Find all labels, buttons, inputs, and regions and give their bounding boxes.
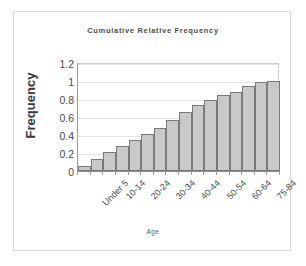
bar [192, 105, 205, 171]
y-tick-label: 0.6 [59, 112, 78, 124]
x-tick-mark [191, 171, 192, 175]
x-tick-mark [153, 171, 154, 175]
x-tick-mark [178, 171, 179, 175]
bar [204, 100, 217, 171]
bar [166, 120, 179, 171]
bar [267, 81, 280, 171]
x-tick-mark [216, 171, 217, 175]
bar [91, 159, 104, 171]
x-axis-title: Age [14, 228, 292, 235]
x-tick-mark [254, 171, 255, 175]
x-tick-label: 10-14 [123, 178, 146, 201]
x-tick-mark [77, 171, 78, 175]
bar [179, 112, 192, 171]
x-tick-mark [102, 171, 103, 175]
y-tick-label: 0.8 [59, 94, 78, 106]
bar [230, 92, 243, 171]
x-tick-mark [90, 171, 91, 175]
bar [116, 146, 129, 171]
y-tick-label: 0.2 [59, 148, 78, 160]
bar [217, 95, 230, 172]
x-tick-mark [128, 171, 129, 175]
chart-title: Cumulative Relative Frequency [14, 26, 292, 35]
x-tick-mark [279, 171, 280, 175]
x-tick-label: Under 5 [101, 178, 131, 208]
bar [242, 86, 255, 172]
bar [103, 152, 116, 171]
bar [255, 82, 268, 171]
x-tick-label: 30-34 [174, 178, 197, 201]
bar [154, 128, 167, 171]
x-tick-mark [203, 171, 204, 175]
bar-series [78, 64, 278, 171]
x-tick-mark [165, 171, 166, 175]
x-tick-mark [115, 171, 116, 175]
x-tick-mark [241, 171, 242, 175]
y-tick-label: 1.2 [59, 58, 78, 70]
bar [141, 134, 154, 171]
y-tick-label: 1 [68, 76, 78, 88]
y-tick-label: 0.4 [59, 130, 78, 142]
x-tick-mark [229, 171, 230, 175]
x-tick-label: 60-64 [250, 178, 273, 201]
x-tick-mark [266, 171, 267, 175]
chart-frame: Cumulative Relative Frequency Frequency … [13, 11, 291, 251]
x-tick-label: 20-24 [149, 178, 172, 201]
x-tick-label: 40-44 [199, 178, 222, 201]
bar [129, 140, 142, 172]
x-tick-label: 75-84 [275, 178, 298, 201]
x-tick-label: 50-54 [224, 178, 247, 201]
y-axis-title: Frequency [23, 61, 38, 151]
x-tick-mark [140, 171, 141, 175]
plot-area: 00.20.40.60.811.2 [77, 63, 279, 171]
